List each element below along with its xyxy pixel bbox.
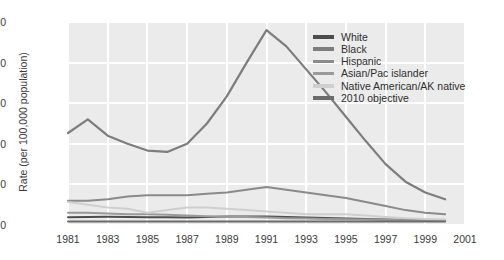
legend-item[interactable]: Hispanic <box>313 55 465 67</box>
legend: WhiteBlackHispanicAsian/Pac islanderNati… <box>313 31 465 104</box>
legend-item[interactable]: Black <box>313 43 465 55</box>
x-tick-label: 2001 <box>435 233 495 245</box>
legend-swatch <box>313 72 334 76</box>
legend-item[interactable]: 2010 objective <box>313 92 465 104</box>
legend-label: Native American/AK native <box>341 81 465 92</box>
legend-swatch <box>313 35 334 39</box>
legend-label: Black <box>341 44 367 55</box>
y-axis-label: Rate (per 100,000 population) <box>17 27 29 217</box>
legend-swatch <box>313 84 334 88</box>
legend-swatch <box>313 96 334 100</box>
y-axis-label-wrap: Rate (per 100,000 population) <box>0 0 22 260</box>
legend-item[interactable]: Native American/AK native <box>313 80 465 92</box>
legend-label: Hispanic <box>341 56 381 67</box>
legend-label: Asian/Pac islander <box>341 68 428 79</box>
legend-item[interactable]: White <box>313 31 465 43</box>
line-chart: 0306090120150 Rate (per 100,000 populati… <box>0 0 504 260</box>
legend-item[interactable]: Asian/Pac islander <box>313 68 465 80</box>
legend-swatch <box>313 47 334 51</box>
legend-swatch <box>313 60 334 64</box>
legend-label: 2010 objective <box>341 93 409 104</box>
legend-label: White <box>341 32 368 43</box>
